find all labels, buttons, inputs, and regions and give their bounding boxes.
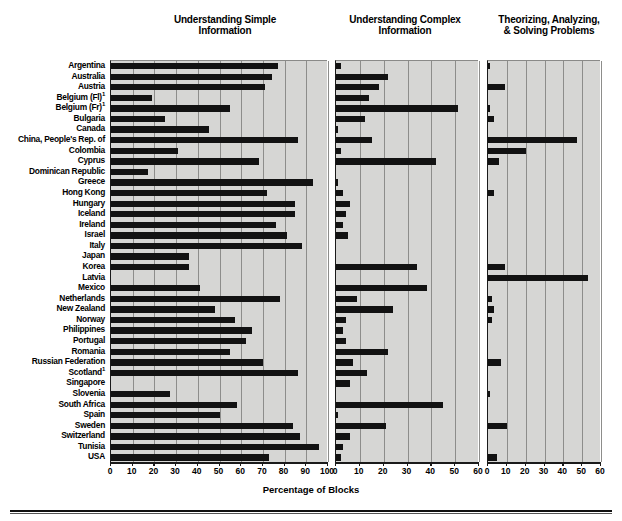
bar-row xyxy=(488,124,601,134)
bar xyxy=(336,222,343,228)
bar-row xyxy=(488,400,601,410)
bar xyxy=(336,126,338,132)
bar-row xyxy=(111,156,328,166)
axis-tick-label: 0 xyxy=(477,466,497,476)
bar xyxy=(336,148,341,154)
bar-row xyxy=(336,82,479,92)
bar xyxy=(111,454,269,460)
axis-tick-label: 80 xyxy=(274,466,294,476)
bar-row xyxy=(336,315,479,325)
axis-tick-label: 40 xyxy=(420,466,440,476)
bar-row xyxy=(336,410,479,420)
bar xyxy=(336,412,338,418)
category-label: Italy xyxy=(89,240,105,250)
bar-row xyxy=(336,188,479,198)
bar xyxy=(111,222,276,228)
axis-tick-label: 60 xyxy=(230,466,250,476)
bar xyxy=(111,169,148,175)
bar-row xyxy=(488,103,601,113)
bar-row xyxy=(488,146,601,156)
footer-rule xyxy=(10,510,612,512)
category-label: Romania xyxy=(71,346,105,356)
gridline xyxy=(601,61,602,462)
bar xyxy=(336,317,346,323)
bar-row xyxy=(488,209,601,219)
axis-tick-label: 50 xyxy=(444,466,464,476)
category-label: Greece xyxy=(78,176,105,186)
bar xyxy=(111,116,165,122)
category-label: Bulgaria xyxy=(73,113,105,123)
bar-row xyxy=(111,209,328,219)
bar-row xyxy=(111,336,328,346)
bar-row xyxy=(488,262,601,272)
bar-row xyxy=(111,325,328,335)
bar xyxy=(488,306,494,312)
bar xyxy=(336,306,393,312)
bar xyxy=(488,158,499,164)
bar-row xyxy=(111,188,328,198)
bar-row xyxy=(488,410,601,420)
bar xyxy=(111,179,313,185)
bar xyxy=(111,306,215,312)
category-label: Austria xyxy=(78,81,105,91)
bar xyxy=(488,275,588,281)
bar xyxy=(336,423,386,429)
bar xyxy=(336,116,365,122)
bar xyxy=(488,116,494,122)
bar-row xyxy=(488,325,601,335)
bar xyxy=(111,359,263,365)
bar-row xyxy=(488,251,601,261)
bar xyxy=(336,296,357,302)
bar-row xyxy=(111,347,328,357)
bar xyxy=(336,158,436,164)
bar xyxy=(111,137,298,143)
category-label: Scotland1 xyxy=(69,367,105,377)
bar xyxy=(336,338,346,344)
bar xyxy=(336,190,343,196)
bar-row xyxy=(111,294,328,304)
bar xyxy=(488,84,505,90)
bar xyxy=(111,296,280,302)
category-label: China, People's Rep. of xyxy=(18,134,105,144)
bar-row xyxy=(336,347,479,357)
axis-tick-label: 10 xyxy=(496,466,516,476)
bar-row xyxy=(488,378,601,388)
axis-tick-label: 30 xyxy=(534,466,554,476)
axis-tick-label: 30 xyxy=(397,466,417,476)
bar xyxy=(488,105,490,111)
bar-row xyxy=(336,378,479,388)
bar-row xyxy=(111,93,328,103)
bar xyxy=(111,232,287,238)
bar-row xyxy=(336,114,479,124)
category-label: Argentina xyxy=(68,60,105,70)
bar-row xyxy=(488,167,601,177)
bar xyxy=(336,402,443,408)
bar-row xyxy=(111,421,328,431)
bar xyxy=(336,454,341,460)
bar-row xyxy=(111,135,328,145)
category-label: Ireland xyxy=(79,219,105,229)
axis-tick-label: 30 xyxy=(165,466,185,476)
bar-row xyxy=(488,61,601,71)
bar-row xyxy=(336,209,479,219)
bar xyxy=(111,391,170,397)
bar xyxy=(111,317,235,323)
bar-row xyxy=(111,72,328,82)
axis-tick-label: 0 xyxy=(100,466,120,476)
bar-row xyxy=(111,103,328,113)
bar xyxy=(111,285,200,291)
bar-row xyxy=(336,199,479,209)
bar-row xyxy=(111,199,328,209)
category-label: South Africa xyxy=(59,399,105,409)
x-axis-simple: 0102030405060708090100 xyxy=(110,462,327,478)
panel-title-simple: Understanding Simple Information xyxy=(150,14,300,36)
bar-row xyxy=(111,241,328,251)
bar-row xyxy=(111,220,328,230)
bar-row xyxy=(111,251,328,261)
category-label: Korea xyxy=(83,261,106,271)
category-label: Hungary xyxy=(73,198,105,208)
bar-row xyxy=(488,283,601,293)
bar xyxy=(111,158,259,164)
bar xyxy=(111,423,293,429)
bar-row xyxy=(336,93,479,103)
